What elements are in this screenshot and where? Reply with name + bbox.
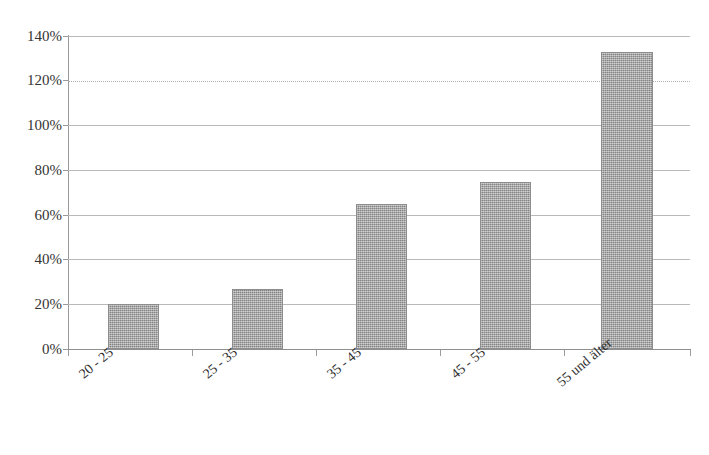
x-tick-1 bbox=[192, 350, 193, 356]
chart-page: 140% 120% 100% 80% 60% 40% 20% 0% bbox=[0, 0, 709, 455]
bar-25-35[interactable] bbox=[232, 289, 283, 349]
bar-55-und-alter[interactable] bbox=[601, 52, 653, 349]
x-tick-5 bbox=[690, 350, 691, 356]
gridline-80 bbox=[68, 170, 690, 171]
bar-35-45[interactable] bbox=[356, 204, 407, 349]
bar-20-25[interactable] bbox=[108, 304, 159, 349]
x-label-35-45: 35 - 45 bbox=[324, 344, 365, 382]
y-tick-label-100: 100% bbox=[0, 117, 62, 134]
x-tick-2 bbox=[316, 350, 317, 356]
y-tick-label-20: 20% bbox=[0, 296, 62, 313]
gridline-140 bbox=[68, 36, 690, 37]
y-tick-label-40: 40% bbox=[0, 251, 62, 268]
y-tick-label-120: 120% bbox=[0, 72, 62, 89]
x-label-20-25: 20 - 25 bbox=[76, 344, 117, 382]
y-tick-label-80: 80% bbox=[0, 162, 62, 179]
bar-45-55[interactable] bbox=[480, 182, 531, 349]
y-tick-label-140: 140% bbox=[0, 28, 62, 45]
chart-title-cropped bbox=[0, 0, 709, 9]
x-tick-0 bbox=[68, 350, 69, 356]
x-label-45-55: 45 - 55 bbox=[448, 344, 489, 382]
y-tick-label-60: 60% bbox=[0, 207, 62, 224]
gridline-120 bbox=[68, 81, 690, 82]
x-tick-4 bbox=[564, 350, 565, 356]
plot-area bbox=[68, 36, 690, 349]
x-label-25-35: 25 - 35 bbox=[200, 344, 241, 382]
y-tick-label-0: 0% bbox=[0, 341, 62, 358]
gridline-100 bbox=[68, 125, 690, 126]
x-tick-3 bbox=[440, 350, 441, 356]
